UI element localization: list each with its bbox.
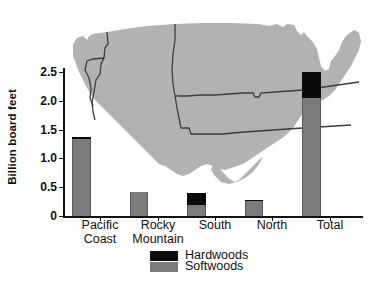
x-label-total: Total (275, 219, 373, 233)
bar-segment-softwoods-north (245, 201, 263, 216)
bar-south[interactable] (187, 66, 206, 216)
bar-segment-hardwoods-total (302, 72, 321, 98)
bar-segment-softwoods-total (302, 98, 321, 216)
legend-swatch-hardwoods (150, 251, 178, 261)
y-tick-label-2.0: 2.0 (17, 94, 57, 108)
y-tick-label-0.5: 0.5 (17, 180, 57, 194)
y-tick-label-1.0: 1.0 (17, 151, 57, 165)
bar-segment-softwoods-pacific-coast (72, 139, 91, 216)
bar-north[interactable] (245, 66, 263, 216)
bar-rocky-mountain[interactable] (130, 66, 148, 216)
legend-label-softwoods: Softwoods (185, 261, 243, 272)
y-tick-label-1.5: 1.5 (17, 123, 57, 137)
y-tick-0 (59, 216, 65, 217)
bar-total[interactable] (302, 66, 321, 216)
forest-growth-chart: Billion board feet 2.5 2.0 1.5 1.0 0.5 0 (0, 0, 373, 285)
legend: Hardwoods Softwoods (150, 250, 248, 272)
y-tick-label-2.5: 2.5 (17, 65, 57, 79)
bar-pacific-coast[interactable] (72, 66, 91, 216)
bar-segment-softwoods-rocky-mountain (130, 192, 148, 216)
bars-layer (63, 66, 363, 216)
legend-swatch-softwoods (150, 262, 178, 272)
bar-segment-hardwoods-south (187, 193, 206, 205)
bar-segment-softwoods-south (187, 205, 206, 217)
legend-item-softwoods[interactable]: Softwoods (150, 261, 248, 272)
